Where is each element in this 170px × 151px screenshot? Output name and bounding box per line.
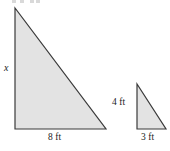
small-triangle-height-label: 4 ft	[112, 98, 125, 108]
large-triangle-height-label: x	[4, 63, 9, 73]
large-triangle-base-label: 8 ft	[48, 133, 61, 143]
large-triangle	[15, 8, 106, 129]
small-triangle	[137, 84, 166, 129]
geometry-figure: x 8 ft 4 ft 3 ft	[0, 0, 170, 151]
triangles-svg	[0, 0, 170, 151]
small-triangle-base-label: 3 ft	[141, 133, 154, 143]
